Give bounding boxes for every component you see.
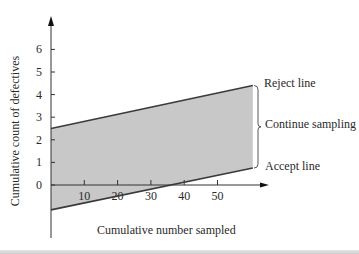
plot-area: 01234561020304050 [36, 16, 269, 238]
bottom-divider [0, 250, 359, 254]
brace-icon [254, 86, 261, 168]
y-tick-label: 6 [36, 42, 42, 56]
y-tick-label: 0 [36, 178, 42, 192]
x-axis-label: Cumulative number sampled [97, 223, 236, 238]
x-tick-label: 30 [145, 189, 157, 203]
accept-line-label: Accept line [265, 159, 320, 174]
y-tick-label: 2 [36, 133, 42, 147]
x-tick-label: 10 [78, 189, 90, 203]
x-axis-arrow-icon [260, 183, 269, 188]
y-tick-label: 5 [36, 65, 42, 79]
y-tick-label: 3 [36, 110, 42, 124]
x-tick-label: 50 [212, 189, 224, 203]
y-axis-label: Cumulative count of defectives [8, 56, 23, 206]
continue-sampling-label: Continue sampling [265, 117, 356, 132]
y-axis-arrow-icon [48, 16, 54, 26]
y-tick-label: 1 [36, 155, 42, 169]
reject-line-label: Reject line [264, 76, 316, 91]
y-tick-label: 4 [36, 88, 42, 102]
x-tick-label: 40 [178, 189, 190, 203]
